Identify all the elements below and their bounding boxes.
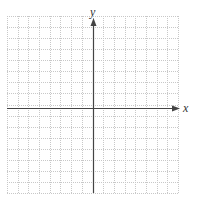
axes xyxy=(7,18,180,193)
y-axis-label: y xyxy=(90,6,95,18)
y-axis-arrow-icon xyxy=(91,18,97,26)
x-axis-label: x xyxy=(183,102,188,114)
grid-lines xyxy=(7,16,179,194)
coordinate-plane xyxy=(0,0,201,200)
